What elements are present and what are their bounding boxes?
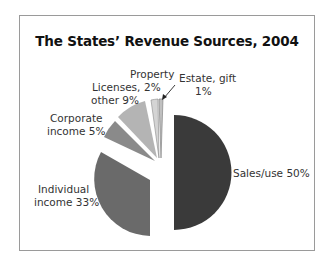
- label-corporate-1: Corporate: [50, 112, 103, 124]
- label-sales: Sales/use 50%: [233, 167, 310, 179]
- label-property-2: 2%: [144, 81, 161, 93]
- slice-sales-use: [174, 115, 231, 230]
- label-estate-2: 1%: [195, 85, 212, 97]
- label-property-1: Property: [130, 68, 174, 80]
- label-corporate-2: income 5%: [47, 125, 105, 137]
- slice-individual-income: [94, 152, 150, 236]
- slice-estate-gift: [159, 99, 163, 158]
- label-licenses-1: Licenses,: [92, 81, 140, 93]
- label-licenses-2: other 9%: [91, 94, 139, 106]
- label-estate-1: Estate, gift: [179, 72, 236, 84]
- label-individual-1: Individual: [38, 183, 89, 195]
- label-individual-2: income 33%: [34, 196, 99, 208]
